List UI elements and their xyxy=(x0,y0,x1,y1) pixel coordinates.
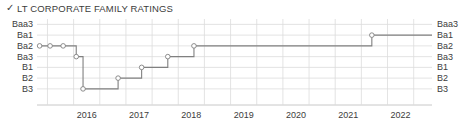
y-axis-label-right-b3: B3 xyxy=(437,84,448,93)
y-axis-label-right-ba3: Ba3 xyxy=(437,52,453,61)
x-axis-label-2018: 2018 xyxy=(181,111,201,120)
check-icon: ✓ xyxy=(6,3,14,13)
y-axis-label-ba3: Ba3 xyxy=(17,52,33,61)
y-axis-label-right-b1: B1 xyxy=(437,63,448,72)
rating-series-line xyxy=(37,19,432,105)
y-axis-label-b3: B3 xyxy=(22,84,33,93)
x-axis-label-2021: 2021 xyxy=(338,111,358,120)
y-axis-label-right-ba1: Ba1 xyxy=(437,31,453,40)
y-axis-label-right-ba2: Ba2 xyxy=(437,41,453,50)
plot-area: Baa3Baa3Ba1Ba1Ba2Ba2Ba3Ba3B1B1B2B2B3B320… xyxy=(37,19,432,105)
x-axis-label-2016: 2016 xyxy=(77,111,97,120)
x-axis-label-2017: 2017 xyxy=(129,111,149,120)
y-axis-label-baa3: Baa3 xyxy=(12,20,33,29)
x-axis-label-2020: 2020 xyxy=(286,111,306,120)
chart-title: ✓ LT CORPORATE FAMILY RATINGS xyxy=(6,2,173,16)
x-axis-label-2019: 2019 xyxy=(234,111,254,120)
y-axis-label-ba2: Ba2 xyxy=(17,41,33,50)
rating-history-chart: ✓ LT CORPORATE FAMILY RATINGS Baa3Baa3Ba… xyxy=(0,0,468,132)
y-axis-label-right-baa3: Baa3 xyxy=(437,20,458,29)
x-axis-label-2022: 2022 xyxy=(391,111,411,120)
chart-title-text: LT CORPORATE FAMILY RATINGS xyxy=(17,4,173,14)
y-axis-label-b2: B2 xyxy=(22,74,33,83)
y-axis-label-b1: B1 xyxy=(22,63,33,72)
y-axis-label-ba1: Ba1 xyxy=(17,31,33,40)
y-axis-label-right-b2: B2 xyxy=(437,74,448,83)
